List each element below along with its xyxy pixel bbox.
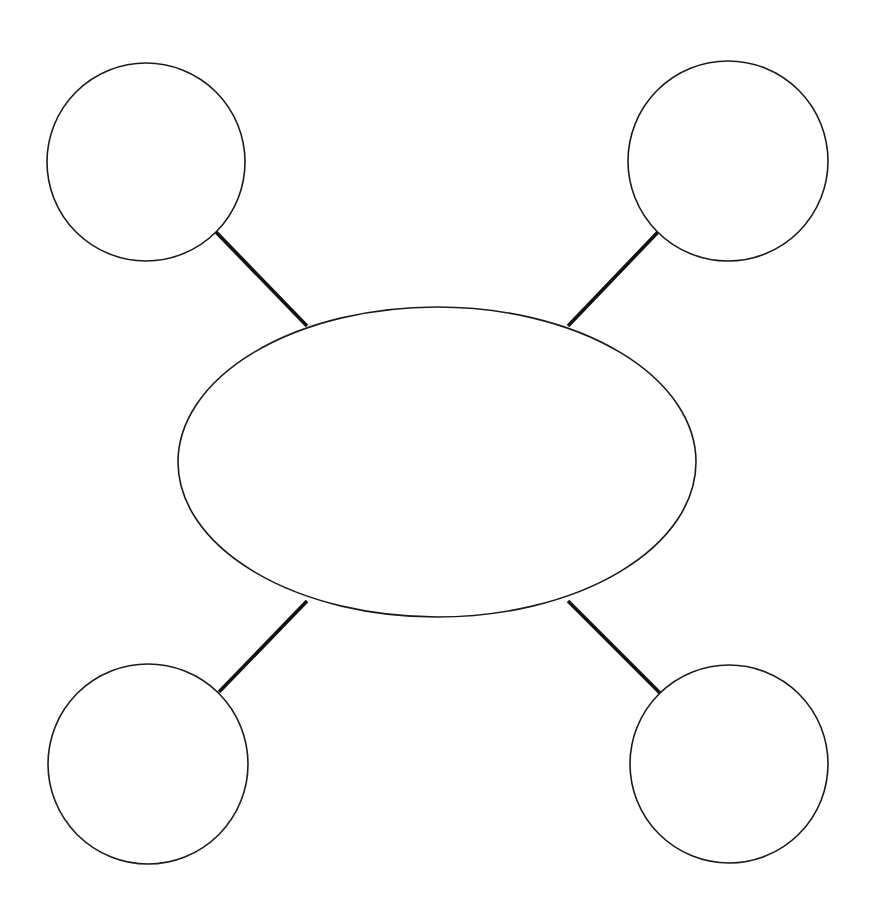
diagram-canvas (0, 0, 882, 911)
node-bottom-left[interactable] (48, 664, 248, 864)
connector-bottom-right (568, 601, 660, 693)
center-node[interactable] (178, 307, 696, 617)
node-bottom-right-shape[interactable] (630, 665, 828, 863)
center-ellipse-shape[interactable] (178, 307, 696, 617)
node-top-left-shape[interactable] (47, 63, 245, 261)
node-top-right-shape[interactable] (628, 61, 828, 261)
node-top-right[interactable] (628, 61, 828, 261)
node-top-left[interactable] (47, 63, 245, 261)
connector-bottom-left (219, 601, 307, 692)
spider-map-diagram (0, 0, 882, 911)
connector-top-left (216, 232, 307, 326)
connector-top-right (568, 232, 658, 326)
node-bottom-left-shape[interactable] (48, 664, 248, 864)
node-bottom-right[interactable] (630, 665, 828, 863)
